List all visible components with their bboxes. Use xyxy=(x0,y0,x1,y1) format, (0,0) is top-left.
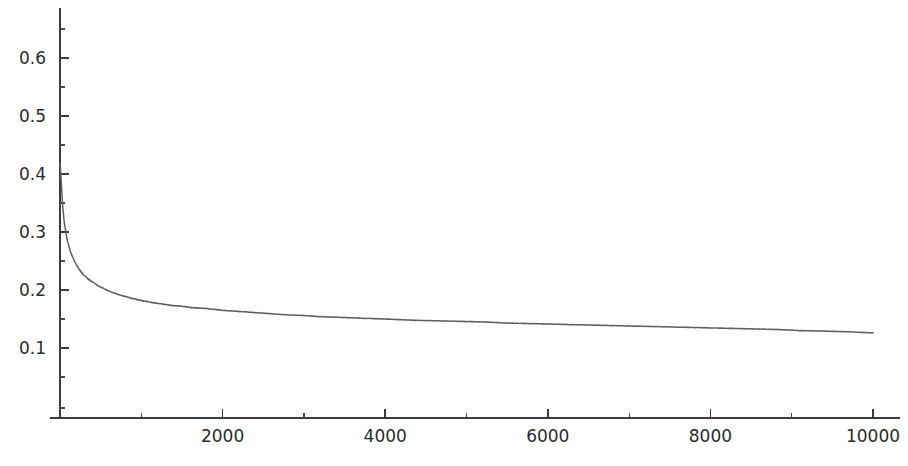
axis-lines xyxy=(50,8,900,418)
x-tick-label: 6000 xyxy=(526,426,569,446)
y-tick-label: 0.1 xyxy=(19,338,46,358)
chart-plot-area: 0.10.20.30.40.50.6 200040006000800010000 xyxy=(0,0,908,466)
y-tick-label: 0.6 xyxy=(19,48,46,68)
x-axis-ticks xyxy=(60,408,873,418)
x-axis-tick-labels: 200040006000800010000 xyxy=(201,426,900,446)
data-curve-decay xyxy=(60,163,873,333)
y-tick-label: 0.3 xyxy=(19,222,46,242)
y-tick-label: 0.4 xyxy=(19,164,46,184)
y-tick-label: 0.2 xyxy=(19,280,46,300)
y-axis-ticks xyxy=(60,29,69,377)
x-tick-label: 4000 xyxy=(364,426,407,446)
x-tick-label: 8000 xyxy=(689,426,732,446)
x-tick-label: 2000 xyxy=(201,426,244,446)
line-chart: 0.10.20.30.40.50.6 200040006000800010000 xyxy=(0,0,908,466)
y-axis-tick-labels: 0.10.20.30.40.50.6 xyxy=(19,48,46,358)
y-tick-label: 0.5 xyxy=(19,106,46,126)
x-tick-label: 10000 xyxy=(846,426,900,446)
data-series-group xyxy=(60,163,873,333)
